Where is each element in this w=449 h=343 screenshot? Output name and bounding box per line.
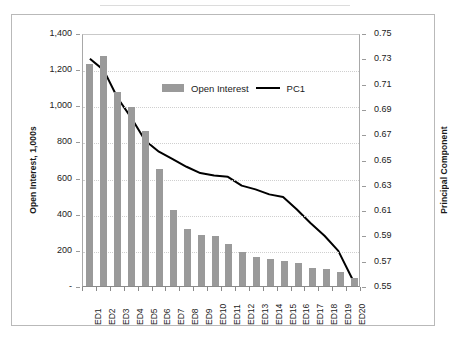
x-axis-tickmark (346, 287, 347, 291)
x-axis-tickmark (235, 287, 236, 291)
x-axis-labels: ED1ED2ED3ED4ED5ED6ED7ED8ED9ED10ED11ED12E… (82, 293, 360, 327)
y-axis-right-title: Principal Component (439, 105, 449, 235)
x-axis-tick-label: ED10 (218, 304, 228, 325)
y-axis-right-tickmark (362, 287, 366, 288)
x-axis-tickmark (193, 287, 194, 291)
bar (281, 261, 288, 286)
y-axis-left-tickmark (76, 106, 80, 107)
y-axis-left-tick-label: 400 (57, 210, 72, 219)
legend-label-pc1: PC1 (287, 83, 305, 94)
y-axis-right-tickmark (362, 211, 366, 212)
bar (184, 229, 191, 286)
bar (170, 210, 177, 286)
x-axis-tick-label: ED13 (260, 304, 270, 325)
bar (309, 268, 316, 286)
y-axis-right-tickmark (362, 236, 366, 237)
legend-swatch-open-interest (162, 84, 184, 92)
x-axis-tick-label: ED11 (232, 304, 242, 325)
y-axis-right-tickmark (362, 262, 366, 263)
x-axis-tickmark (221, 287, 222, 291)
y-axis-right-tick-label: 0.73 (374, 54, 392, 63)
y-axis-right-tick-label: 0.59 (374, 231, 392, 240)
x-axis-tickmark (207, 287, 208, 291)
y-axis-right-tickmark (362, 34, 366, 35)
bar (337, 272, 344, 286)
gridline (83, 216, 359, 217)
x-axis-tick-label: ED2 (107, 308, 117, 325)
y-axis-left-tickmark (76, 34, 80, 35)
bar (198, 235, 205, 286)
legend-line-pc1 (256, 87, 280, 89)
x-axis-tickmark (263, 287, 264, 291)
x-axis-tickmark (360, 287, 361, 291)
x-axis-tick-label: ED9 (204, 308, 214, 325)
bar (142, 131, 149, 286)
bar (267, 259, 274, 286)
y-axis-left-tickmark (76, 215, 80, 216)
x-axis-tick-label: ED3 (121, 308, 131, 325)
y-axis-right-tickmark (362, 59, 366, 60)
y-axis-right-tick-label: 0.57 (374, 257, 392, 266)
bar (86, 64, 93, 286)
x-axis-tick-label: ED8 (190, 308, 200, 325)
y-axis-right-tick-label: 0.69 (374, 105, 392, 114)
gridline (83, 143, 359, 144)
x-axis-tick-label: ED4 (135, 308, 145, 325)
x-axis-tick-label: ED20 (357, 304, 367, 325)
y-axis-right-tick-label: 0.67 (374, 130, 392, 139)
x-axis-tickmark (332, 287, 333, 291)
x-axis-tick-label: ED1 (93, 308, 103, 325)
x-axis-tick-label: ED5 (149, 308, 159, 325)
gridline (83, 71, 359, 72)
y-axis-left-tickmark (76, 179, 80, 180)
y-axis-left-ticks: -2004006008001,0001,2001,400 (36, 15, 80, 327)
y-axis-left-tickmark (76, 251, 80, 252)
chart-frame: Open Interest, 1,000s Principal Componen… (11, 14, 435, 326)
x-axis-tickmark (249, 287, 250, 291)
pc1-line-series (83, 35, 359, 286)
x-axis-tickmark (291, 287, 292, 291)
x-axis-tickmark (179, 287, 180, 291)
x-axis-tick-label: ED12 (246, 304, 256, 325)
y-axis-left-tick-label: 200 (57, 246, 72, 255)
bar (351, 278, 358, 286)
y-axis-left-tickmark (76, 142, 80, 143)
y-axis-right-tickmark (362, 161, 366, 162)
x-axis-tick-label: ED7 (176, 308, 186, 325)
x-axis-tick-label: ED6 (162, 308, 172, 325)
y-axis-right-tick-label: 0.63 (374, 181, 392, 190)
y-axis-right-ticks: 0.550.570.590.610.630.650.670.690.710.73… (362, 15, 402, 327)
x-axis-tick-label: ED19 (343, 304, 353, 325)
y-axis-left-tick-label: 800 (57, 137, 72, 146)
y-axis-left-tick-label: - (69, 282, 72, 291)
y-axis-right-tick-label: 0.55 (374, 282, 392, 291)
bar (156, 169, 163, 286)
x-axis-tickmark (138, 287, 139, 291)
gridline (83, 252, 359, 253)
y-axis-right-tick-label: 0.65 (374, 156, 392, 165)
legend-label-open-interest: Open Interest (191, 83, 249, 94)
gridline (83, 180, 359, 181)
x-axis-tick-label: ED16 (301, 304, 311, 325)
y-axis-right-tickmark (362, 186, 366, 187)
y-axis-right-tick-label: 0.75 (374, 29, 392, 38)
bar (114, 92, 121, 286)
x-axis-tick-label: ED17 (315, 304, 325, 325)
x-axis-tickmark (304, 287, 305, 291)
bar (295, 263, 302, 286)
y-axis-left-tick-label: 1,400 (49, 29, 72, 38)
chart-legend: Open Interest PC1 (162, 79, 305, 97)
gridline (83, 107, 359, 108)
bar (253, 257, 260, 286)
x-axis-tickmark (165, 287, 166, 291)
bar (128, 107, 135, 286)
y-axis-right-tick-label: 0.61 (374, 206, 392, 215)
x-axis-tickmark (277, 287, 278, 291)
bar (212, 236, 219, 286)
y-axis-right-tickmark (362, 85, 366, 86)
bar (323, 269, 330, 286)
x-axis-tick-label: ED18 (329, 304, 339, 325)
cropped-top-rule (100, 5, 350, 6)
y-axis-right-tickmark (362, 135, 366, 136)
y-axis-left-tickmark (76, 70, 80, 71)
